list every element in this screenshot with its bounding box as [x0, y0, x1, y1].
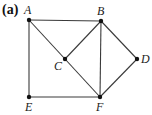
- node-label-e: E: [24, 100, 33, 114]
- nodes-group: [27, 18, 139, 99]
- node-label-d: D: [140, 52, 150, 66]
- node-e: [27, 95, 31, 99]
- node-label-c: C: [54, 59, 63, 73]
- node-b: [99, 19, 103, 23]
- edge-a-b: [29, 20, 101, 21]
- node-f: [98, 95, 102, 99]
- edge-b-d: [101, 21, 137, 59]
- node-a: [27, 18, 31, 22]
- node-label-f: F: [95, 100, 104, 114]
- edge-a-c: [29, 20, 65, 59]
- edges-group: [29, 20, 137, 97]
- edge-c-f: [65, 59, 100, 97]
- graph-diagram: ABCDEF: [0, 0, 152, 115]
- node-c: [63, 57, 67, 61]
- node-d: [135, 57, 139, 61]
- node-label-a: A: [23, 3, 32, 17]
- edge-b-f: [100, 21, 101, 97]
- node-label-b: B: [97, 4, 105, 18]
- edge-b-c: [65, 21, 101, 59]
- edge-d-f: [100, 59, 137, 97]
